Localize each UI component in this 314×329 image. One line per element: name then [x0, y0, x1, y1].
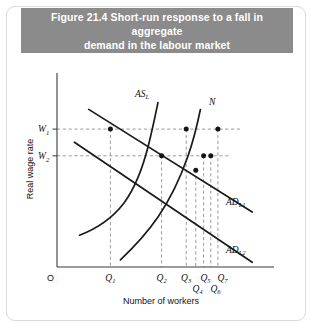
curves — [74, 103, 252, 263]
y-axis-title: Real wage rate — [25, 139, 35, 200]
point-ad2-lower — [193, 168, 198, 173]
curve-as-l — [80, 103, 159, 236]
origin-label: O — [47, 273, 54, 283]
x-tick-label-q3: Q3 — [181, 273, 192, 284]
curve-label-ad-l2: ADL2 — [225, 245, 246, 256]
figure-title-band: Figure 21.4 Short-run response to a fall… — [21, 8, 293, 53]
curve-n — [120, 110, 200, 260]
y-tick-label-w1: W1 — [38, 124, 49, 135]
curve-label-n: N — [208, 97, 216, 107]
curve-label-as-l: ASL — [134, 89, 150, 100]
figure-container: Figure 21.4 Short-run response to a fall… — [0, 0, 314, 329]
x-axis-title: Number of workers — [123, 296, 200, 306]
plot-area: ASL N ADL1 ADL2 W1 W2 — [21, 57, 293, 309]
chart-svg: ASL N ADL1 ADL2 W1 W2 — [21, 57, 293, 309]
point-ad1-w2 — [201, 153, 206, 158]
figure-title: Figure 21.4 Short-run response to a fall… — [37, 10, 277, 52]
x-tick-label-q4: Q4 — [192, 284, 203, 295]
point-eq-w2 — [159, 153, 164, 158]
point-ad2-w1 — [108, 127, 113, 132]
point-n-w2 — [208, 153, 213, 158]
point-eq-w1 — [184, 127, 189, 132]
x-tick-label-q7: Q7 — [217, 273, 228, 284]
figure-title-line-2: demand in the labour market — [84, 39, 230, 51]
figure-title-line-1: Figure 21.4 Short-run response to a fall… — [51, 11, 263, 37]
curve-label-ad-l1: ADL1 — [225, 197, 246, 208]
x-tick-label-q6: Q6 — [210, 284, 221, 295]
y-tick-labels: W1 W2 — [38, 124, 50, 162]
x-tick-labels: Q1 Q2 Q3 Q4 Q5 Q6 Q7 — [105, 273, 228, 295]
marked-points — [108, 127, 220, 173]
point-n-w1 — [215, 127, 220, 132]
y-tick-label-w2: W2 — [38, 151, 50, 162]
x-tick-label-q2: Q2 — [157, 273, 168, 284]
axes — [53, 73, 275, 267]
x-tick-label-q1: Q1 — [105, 273, 115, 284]
x-tick-label-q5: Q5 — [200, 273, 211, 284]
